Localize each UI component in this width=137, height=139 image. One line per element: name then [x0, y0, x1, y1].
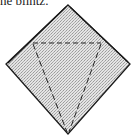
- paper-square: [6, 5, 130, 134]
- blintz-fold-diagram: [0, 0, 137, 139]
